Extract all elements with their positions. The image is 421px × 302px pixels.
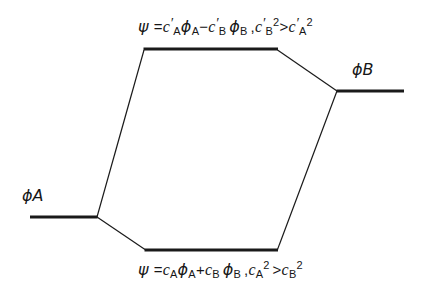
subscript-b-phi: B: [234, 268, 242, 280]
mo-diagram-figure: ϕA ϕB ψ=c′AϕA−c′BϕB,c′B2>c′A2 ψ=cAϕA+cBϕ…: [0, 0, 421, 302]
coefficient-c-a: c: [163, 18, 170, 35]
connector-antibonding-to-phi-b: [278, 50, 338, 91]
ineq-right-exponent: 2: [307, 16, 313, 28]
subscript-b-coeff: B: [212, 268, 220, 280]
connector-lines: [97, 50, 337, 250]
ineq-left-coefficient: c: [248, 261, 255, 278]
subscript-a-coeff: A: [170, 268, 178, 280]
equals-sign: =: [154, 261, 163, 278]
ineq-right-subscript: A: [299, 25, 307, 37]
subscript-a-coeff: A: [173, 25, 181, 37]
psi-symbol: ψ: [138, 260, 149, 279]
ineq-right-coefficient: c: [288, 18, 295, 35]
connector-phi-a-to-bonding: [97, 217, 145, 250]
energy-levels: [30, 49, 404, 250]
plus-operator: +: [196, 261, 205, 278]
bonding-wavefunction-equation: ψ=cAϕA+cBϕB,cA2>cB2: [138, 259, 303, 280]
phi-b-symbol: ϕB: [352, 60, 374, 79]
ineq-left-subscript: B: [266, 25, 274, 37]
phi-b-orbital-label: ϕB: [352, 60, 374, 79]
energy-level-diagram-canvas: [0, 0, 421, 302]
minus-operator: −: [199, 18, 208, 35]
equals-sign: =: [154, 18, 163, 35]
psi-symbol: ψ: [138, 17, 149, 36]
phi-a-orbital-label: ϕA: [22, 186, 44, 205]
connector-bonding-to-phi-b: [278, 91, 338, 250]
phi-b-symbol-eq: ϕ: [229, 17, 240, 36]
connector-phi-a-to-antibonding: [97, 50, 144, 217]
greater-than-sign: >: [273, 261, 282, 278]
subscript-b-coeff: B: [219, 25, 227, 37]
ineq-right-coefficient: c: [282, 261, 289, 278]
phi-a-symbol: ϕA: [22, 186, 44, 205]
subscript-a-phi: A: [188, 268, 196, 280]
coefficient-c-a: c: [163, 261, 170, 278]
phi-a-symbol-eq: ϕ: [181, 17, 192, 36]
ineq-right-exponent: 2: [296, 259, 302, 271]
subscript-b-phi: B: [240, 25, 248, 37]
phi-a-symbol-eq: ϕ: [178, 260, 189, 279]
ineq-left-exponent: 2: [263, 259, 269, 271]
phi-b-symbol-eq: ϕ: [223, 260, 234, 279]
antibonding-wavefunction-equation: ψ=c′AϕA−c′BϕB,c′B2>c′A2: [138, 16, 313, 37]
